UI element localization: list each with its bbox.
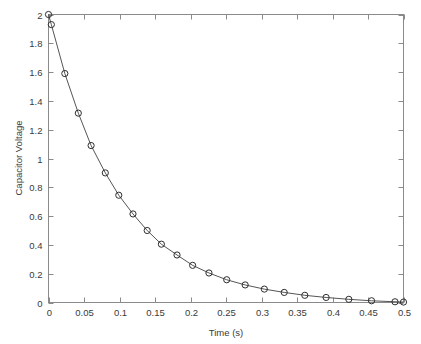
data-markers-capacitor-voltage <box>45 11 406 305</box>
plot-frame <box>49 15 404 303</box>
x-tick-label: 0.3 <box>256 307 269 318</box>
y-tick-label: 1 <box>37 154 42 165</box>
x-tick-label: 0.25 <box>217 307 236 318</box>
x-tick-label: 0.15 <box>146 307 165 318</box>
y-tick-label: 1.6 <box>29 67 42 78</box>
y-tick-label: 1.4 <box>29 96 42 107</box>
x-tick-label: 0.05 <box>75 307 94 318</box>
y-tick-label: 1.2 <box>29 125 42 136</box>
x-tick-label: 0 <box>47 307 52 318</box>
x-tick-label: 0.5 <box>398 307 411 318</box>
capacitor-voltage-chart: 00.050.10.150.20.250.30.350.40.450.5 00.… <box>0 0 421 344</box>
x-tick-label: 0.1 <box>114 307 127 318</box>
y-axis-tick-labels: 00.20.40.60.811.21.41.61.82 <box>29 10 42 309</box>
x-tick-label: 0.2 <box>185 307 198 318</box>
y-tick-label: 0.2 <box>29 269 42 280</box>
x-axis-title: Time (s) <box>209 327 243 338</box>
y-axis-ticks <box>49 16 404 304</box>
y-tick-label: 0.8 <box>29 182 42 193</box>
y-tick-label: 1.8 <box>29 38 42 49</box>
y-tick-label: 0.4 <box>29 240 42 251</box>
chart-figure: 00.050.10.150.20.250.30.350.40.450.5 00.… <box>0 0 421 344</box>
y-axis-title: Capacitor Voltage <box>13 121 24 196</box>
x-tick-label: 0.45 <box>359 307 378 318</box>
y-tick-label: 0 <box>37 298 42 309</box>
y-tick-label: 0.6 <box>29 211 42 222</box>
data-line-capacitor-voltage <box>49 15 404 303</box>
x-tick-label: 0.4 <box>327 307 340 318</box>
x-axis-ticks <box>50 15 405 303</box>
x-tick-label: 0.35 <box>288 307 307 318</box>
y-tick-label: 2 <box>37 10 42 21</box>
x-axis-tick-labels: 00.050.10.150.20.250.30.350.40.450.5 <box>47 307 411 318</box>
